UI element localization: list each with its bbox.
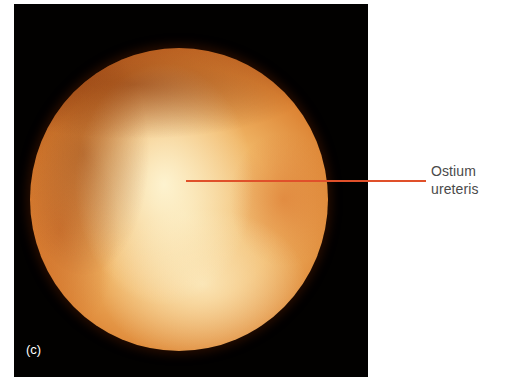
endoscopic-view-disc [30, 48, 328, 351]
callout-label: Ostium ureteris [431, 162, 478, 198]
callout-pointer-line [186, 180, 426, 182]
callout-label-line-1: Ostium [431, 162, 478, 180]
panel-label: (c) [26, 343, 41, 357]
endoscopic-image-panel: (c) [14, 4, 368, 377]
callout-label-line-2: ureteris [431, 180, 478, 198]
